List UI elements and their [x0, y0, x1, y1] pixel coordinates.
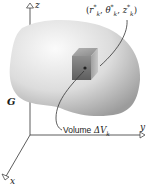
region-label: G: [7, 96, 16, 107]
x-axis-label: x: [10, 176, 15, 186]
x-axis: [2, 135, 30, 180]
z-axis-label: z: [35, 0, 40, 10]
y-axis-label: y: [140, 122, 145, 132]
figure-canvas: [0, 0, 147, 188]
volume-label: Volume ΔVk: [63, 125, 110, 135]
volume-element-cube: [72, 48, 98, 80]
point-coordinates-label: (r*k, θ*k, z*k): [86, 5, 137, 15]
